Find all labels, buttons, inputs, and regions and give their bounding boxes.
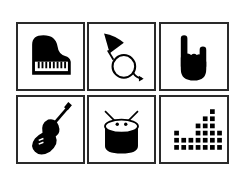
tile-rock-hand[interactable]: Rock hand	[159, 22, 229, 91]
tile-piano[interactable]: Piano	[16, 22, 85, 91]
grand-piano-icon	[18, 24, 83, 89]
guitar-icon	[18, 97, 83, 162]
tile-french-horn[interactable]: French horn	[87, 22, 156, 91]
rock-hand-icon	[161, 24, 227, 89]
tile-equalizer[interactable]: Equalizer	[159, 95, 229, 164]
tile-guitar[interactable]: Guitar	[16, 95, 85, 164]
drum-icon	[89, 97, 154, 162]
tile-drum[interactable]: Drum	[87, 95, 156, 164]
equalizer-icon	[161, 97, 227, 162]
french-horn-icon	[89, 24, 154, 89]
